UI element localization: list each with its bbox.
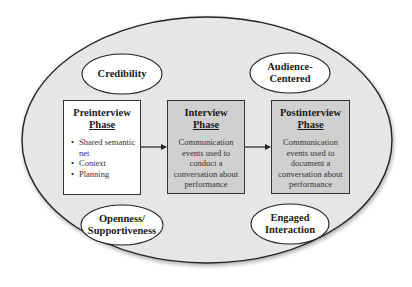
openness-line2: Supportiveness — [88, 225, 156, 237]
engaged-line1: Engaged — [270, 212, 309, 224]
audience-centered-line1: Audience- — [267, 61, 313, 73]
interview-title: Interview Phase — [173, 107, 239, 131]
bullet-item: Planning — [79, 169, 135, 180]
bullet-item: Shared semantic net — [79, 137, 135, 158]
engaged-label: Engaged Interaction — [251, 204, 329, 244]
openness-line1: Openness/ — [99, 213, 145, 225]
postinterview-description: Communication events used to document a … — [277, 137, 344, 190]
audience-centered-line2: Centered — [269, 73, 310, 85]
engaged-line2: Interaction — [265, 224, 315, 236]
postinterview-title-line2: Phase — [277, 119, 344, 131]
bullet-item: Context — [79, 158, 135, 169]
interview-description: Communication events used to conduct a c… — [173, 137, 239, 190]
credibility-label: Credibility — [82, 54, 162, 94]
postinterview-title-line1: Postinterview — [277, 107, 344, 119]
preinterview-phase-box: Preinterview Phase Shared semantic net C… — [63, 100, 141, 195]
preinterview-bullets: Shared semantic net Context Planning — [69, 137, 135, 179]
openness-label: Openness/ Supportiveness — [81, 205, 163, 245]
preinterview-title-line2: Phase — [69, 119, 135, 131]
preinterview-title-line1: Preinterview — [69, 107, 135, 119]
postinterview-phase-box: Postinterview Phase Communication events… — [271, 100, 350, 194]
postinterview-title: Postinterview Phase — [277, 107, 344, 131]
audience-centered-label: Audience- Centered — [250, 53, 330, 93]
preinterview-title: Preinterview Phase — [69, 107, 135, 131]
interview-phase-box: Interview Phase Communication events use… — [167, 100, 245, 194]
interview-title-line1: Interview — [173, 107, 239, 119]
interview-title-line2: Phase — [173, 119, 239, 131]
credibility-text: Credibility — [98, 68, 147, 80]
